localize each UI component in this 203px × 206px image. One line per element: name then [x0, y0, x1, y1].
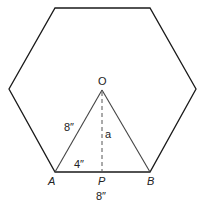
label-base-ab: 8″	[96, 190, 106, 202]
label-vertex-a: A	[47, 175, 55, 187]
label-side-oa: 8″	[64, 121, 74, 133]
label-vertex-o: O	[98, 75, 107, 87]
label-half-base: 4″	[74, 158, 84, 170]
label-point-p: P	[98, 175, 106, 187]
label-apothem: a	[105, 128, 112, 140]
hexagon-diagram: O A P B 8″ 4″ a 8″	[0, 0, 203, 206]
label-vertex-b: B	[147, 175, 154, 187]
